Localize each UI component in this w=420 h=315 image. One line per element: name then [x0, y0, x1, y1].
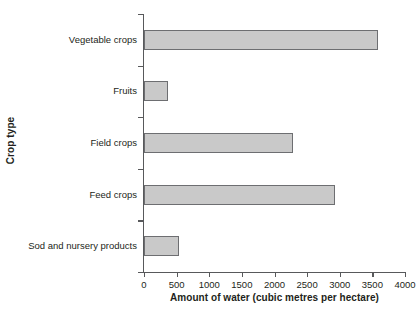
x-axis-tick-label: 4000	[385, 279, 420, 291]
x-axis-tick	[405, 272, 406, 277]
bar	[144, 81, 168, 101]
y-axis-tick	[138, 66, 144, 67]
y-axis-tick	[138, 220, 144, 221]
x-axis-tick	[242, 272, 243, 277]
y-axis-tick	[138, 117, 144, 118]
category-label: Fruits	[113, 84, 137, 98]
bar	[144, 236, 179, 256]
category-label-list: Vegetable cropsFruitsField cropsFeed cro…	[14, 14, 141, 272]
category-label: Feed crops	[89, 188, 137, 202]
bar	[144, 30, 378, 50]
y-axis-tick	[138, 14, 144, 15]
bar	[144, 185, 335, 205]
category-label: Vegetable crops	[69, 33, 137, 47]
x-axis-tick	[177, 272, 178, 277]
x-axis-tick	[144, 272, 145, 277]
x-axis-tick	[372, 272, 373, 277]
x-axis-tick	[307, 272, 308, 277]
y-axis-tick	[138, 169, 144, 170]
x-axis-tick	[275, 272, 276, 277]
x-axis-tick	[209, 272, 210, 277]
bar	[144, 133, 293, 153]
plot-area	[144, 14, 405, 272]
x-axis-title: Amount of water (cubic metres per hectar…	[144, 292, 405, 303]
x-axis-tick	[340, 272, 341, 277]
category-label: Sod and nursery products	[28, 239, 137, 253]
category-label: Field crops	[91, 136, 137, 150]
